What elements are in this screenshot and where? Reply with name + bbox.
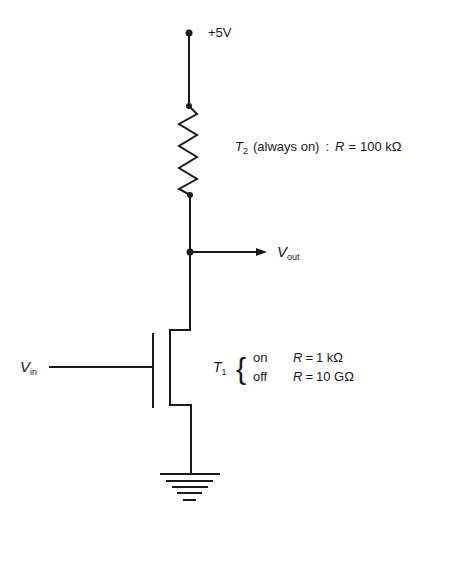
t1-subscript: 1	[222, 367, 227, 377]
t1-off-state: off	[253, 369, 268, 384]
t1-off-equals: =	[305, 369, 313, 384]
drain-channel-source-wire	[170, 252, 191, 472]
input-label: Vin	[20, 358, 37, 377]
load-transistor-label: T2(always on):R=100 kΩ	[235, 139, 402, 156]
nmos-inverter-diagram: +5V T2(always on):R=100 kΩ Vout Vin T1	[0, 0, 459, 561]
output-arrow-icon	[256, 248, 267, 256]
t1-name: T1	[213, 359, 227, 377]
t1-off-resistance: R=10 GΩ	[293, 369, 354, 384]
supply-terminal: +5V	[186, 25, 232, 40]
ground-icon	[161, 474, 219, 500]
switch-transistor-label: T1 { on off R=1 kΩ R=10 GΩ	[213, 350, 354, 385]
vout-subscript: out	[287, 252, 300, 262]
t1-on-resistance: R=1 kΩ	[293, 350, 343, 365]
t1-off-value: 10 GΩ	[316, 369, 354, 384]
t2-value: 100 kΩ	[360, 139, 402, 154]
t1-on-r-symbol: R	[293, 350, 302, 365]
load-resistor	[179, 103, 197, 198]
resistor-zigzag-icon	[179, 106, 197, 195]
t1-on-value: 1 kΩ	[316, 350, 343, 365]
output-terminal: Vout	[187, 243, 301, 262]
output-label: Vout	[277, 243, 300, 262]
t2-separator: :	[325, 139, 329, 154]
t2-r-symbol: R	[335, 139, 344, 154]
t1-on-state: on	[253, 350, 267, 365]
t1-on-equals: =	[305, 350, 313, 365]
vin-subscript: in	[30, 367, 37, 377]
switch-transistor	[50, 252, 191, 472]
t2-subscript: 2	[243, 146, 248, 156]
supply-label: +5V	[208, 25, 232, 40]
t1-brace-icon: {	[236, 352, 246, 385]
t2-equals: =	[348, 139, 356, 154]
t1-off-r-symbol: R	[293, 369, 302, 384]
t2-description: (always on)	[253, 139, 319, 154]
